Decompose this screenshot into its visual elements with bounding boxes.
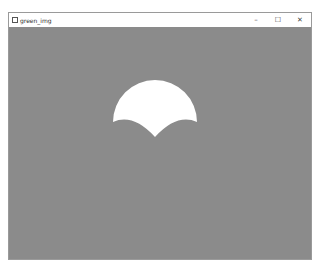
maximize-button[interactable]: ☐ <box>267 13 289 27</box>
shape-graphic <box>9 27 311 259</box>
scalloped-semicircle-shape <box>113 80 197 137</box>
image-canvas <box>9 27 311 259</box>
window-title: green_img <box>20 17 52 24</box>
minimize-button[interactable]: – <box>245 13 267 27</box>
title-bar[interactable]: green_img – ☐ ✕ <box>9 13 311 27</box>
app-icon <box>12 17 18 23</box>
close-button[interactable]: ✕ <box>289 13 311 27</box>
window-controls: – ☐ ✕ <box>245 13 311 27</box>
app-window: green_img – ☐ ✕ <box>8 12 312 260</box>
